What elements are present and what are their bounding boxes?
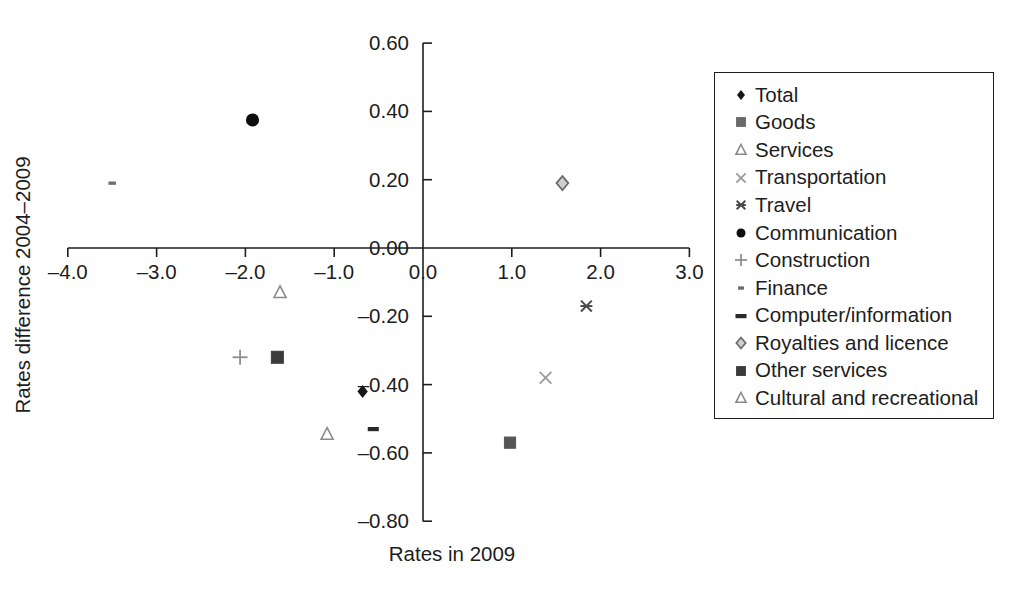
legend-item-label: Transportation: [753, 167, 886, 188]
legend-glyph: [735, 314, 746, 318]
legend-glyph: [736, 201, 746, 210]
legend-glyph: [736, 144, 746, 154]
data-point: [504, 437, 515, 448]
legend-marker-glyph: [729, 359, 753, 383]
legend-item-label: Travel: [753, 195, 811, 216]
marker-triangle: [274, 286, 286, 298]
legend-marker-plus-icon: [729, 248, 753, 272]
legend-marker-square-icon: [729, 110, 753, 134]
x-tick-label: 1.0: [498, 260, 527, 283]
legend-item[interactable]: Goods: [729, 109, 987, 137]
marker-dash-bold: [735, 314, 746, 318]
marker-square: [271, 351, 283, 363]
legend-marker-glyph: [729, 248, 753, 272]
marker-diamond-open: [556, 176, 568, 190]
y-tick-label: 0.60: [369, 31, 409, 54]
marker-dash-small: [738, 286, 744, 289]
y-tick-label: –0.20: [358, 304, 409, 327]
y-tick-label: 0.40: [369, 99, 409, 122]
legend-item-label: Other services: [753, 360, 887, 381]
legend-item[interactable]: Transportation: [729, 164, 987, 192]
legend-item-list: TotalGoodsServicesTransportationTravelCo…: [729, 81, 987, 412]
legend-marker-glyph: [729, 83, 753, 107]
marker-circle: [246, 113, 259, 126]
legend-marker-glyph: [729, 221, 753, 245]
legend-marker-glyph: [729, 386, 753, 410]
legend-item[interactable]: Finance: [729, 274, 987, 302]
legend-glyph: [736, 173, 745, 182]
legend-item-label: Services: [753, 140, 834, 161]
chart-legend: TotalGoodsServicesTransportationTravelCo…: [714, 72, 994, 419]
y-tick-label: –0.60: [358, 441, 409, 464]
legend-item[interactable]: Travel: [729, 191, 987, 219]
x-tick-label: 0.0: [409, 260, 438, 283]
x-axis-title: Rates in 2009: [389, 542, 516, 565]
marker-dash-small: [108, 182, 116, 185]
legend-item[interactable]: Other services: [729, 357, 987, 385]
legend-marker-cross-x-icon: [729, 166, 753, 190]
chart-page: –4.0–3.0–2.0–1.00.01.02.03.00.600.400.20…: [0, 0, 1026, 590]
legend-item-label: Communication: [753, 223, 897, 244]
marker-square: [737, 366, 746, 375]
legend-item[interactable]: Total: [729, 81, 987, 109]
legend-glyph: [737, 90, 745, 100]
legend-item-label: Construction: [753, 250, 870, 271]
x-tick-label: –1.0: [314, 260, 354, 283]
legend-item[interactable]: Communication: [729, 219, 987, 247]
legend-item[interactable]: Construction: [729, 247, 987, 275]
legend-marker-dash-bold-icon: [729, 304, 753, 328]
legend-glyph: [736, 338, 745, 349]
legend-marker-glyph: [729, 166, 753, 190]
legend-item-label: Total: [753, 85, 798, 106]
y-tick-label: 0.00: [369, 236, 409, 259]
legend-glyph: [738, 286, 744, 289]
legend-item[interactable]: Computer/information: [729, 302, 987, 330]
legend-marker-glyph: [729, 110, 753, 134]
data-point: [108, 182, 116, 185]
legend-glyph: [736, 393, 746, 403]
data-point: [233, 350, 248, 365]
legend-glyph: [737, 366, 746, 375]
marker-diamond: [737, 90, 745, 100]
legend-marker-glyph: [729, 276, 753, 300]
legend-item[interactable]: Cultural and recreational: [729, 385, 987, 413]
legend-item-label: Finance: [753, 278, 828, 299]
marker-diamond-open: [736, 338, 745, 349]
data-point: [580, 301, 592, 312]
data-point: [274, 286, 286, 298]
y-tick-label: –0.80: [358, 509, 409, 532]
data-point: [246, 113, 259, 126]
legend-glyph: [736, 228, 745, 237]
marker-square: [504, 437, 515, 448]
legend-glyph: [735, 254, 747, 266]
legend-item-label: Cultural and recreational: [753, 388, 978, 409]
legend-marker-dash-small-icon: [729, 276, 753, 300]
marker-triangle: [736, 144, 746, 154]
marker-dash-bold: [368, 427, 379, 431]
marker-triangle: [321, 428, 333, 440]
legend-marker-diamond-open-icon: [729, 331, 753, 355]
data-point: [368, 427, 379, 431]
data-point: [271, 351, 283, 363]
legend-marker-glyph: [729, 138, 753, 162]
legend-glyph: [737, 118, 746, 127]
marker-square: [737, 118, 746, 127]
x-tick-label: –2.0: [225, 260, 265, 283]
x-tick-label: 2.0: [586, 260, 615, 283]
legend-marker-circle-icon: [729, 221, 753, 245]
legend-marker-glyph: [729, 304, 753, 328]
legend-marker-diamond-icon: [729, 83, 753, 107]
legend-marker-glyph: [729, 331, 753, 355]
legend-item-label: Computer/information: [753, 305, 952, 326]
legend-marker-triangle-icon: [729, 138, 753, 162]
legend-item[interactable]: Services: [729, 136, 987, 164]
marker-triangle: [736, 393, 746, 403]
legend-marker-glyph: [729, 193, 753, 217]
legend-item[interactable]: Royalties and licence: [729, 329, 987, 357]
x-tick-label: –4.0: [48, 260, 88, 283]
legend-marker-square-icon: [729, 359, 753, 383]
data-point: [321, 428, 333, 440]
data-point: [556, 176, 568, 190]
legend-marker-asterisk-icon: [729, 193, 753, 217]
legend-item-label: Royalties and licence: [753, 333, 949, 354]
